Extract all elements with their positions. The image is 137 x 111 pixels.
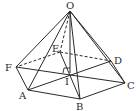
edge-FA xyxy=(16,67,28,90)
label-A: A xyxy=(18,90,27,101)
label-I: I xyxy=(65,76,69,87)
hexagonal-pyramid-diagram: O E F D C A B I xyxy=(0,0,137,111)
label-E: E xyxy=(52,43,59,54)
label-D: D xyxy=(114,55,122,66)
edge-BC xyxy=(80,83,125,99)
label-B: B xyxy=(76,101,83,111)
edge-AB xyxy=(28,90,80,99)
label-F: F xyxy=(5,62,12,73)
label-C: C xyxy=(127,80,135,91)
edge-OD xyxy=(70,11,111,61)
edge-OE-hidden xyxy=(60,11,70,52)
edge-OF xyxy=(16,11,70,67)
edge-OA xyxy=(28,11,70,90)
edge-ED-hidden xyxy=(60,52,111,61)
label-O: O xyxy=(66,0,74,11)
